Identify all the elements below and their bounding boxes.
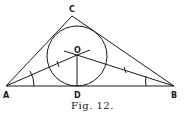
point-label-o: O [74, 46, 81, 55]
figure-caption: Fig. 12. [0, 100, 185, 111]
point-label-b: B [171, 91, 177, 100]
bisector-ao [6, 55, 77, 86]
point-label-a: A [3, 91, 10, 100]
point-label-c: C [69, 5, 75, 14]
angle-arc-a [30, 71, 34, 86]
point-label-d: D [74, 91, 81, 100]
